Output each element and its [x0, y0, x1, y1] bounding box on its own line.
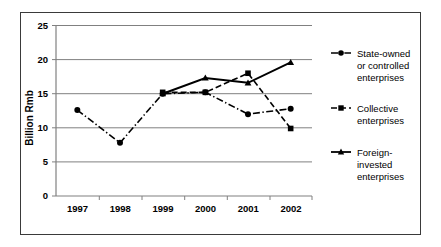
legend-entry-foreign-invested[interactable]: Foreign- invested enterprises — [331, 147, 404, 182]
data-point-circle-icon — [245, 111, 251, 117]
y-axis-title-text: Billion Rmb — [24, 90, 35, 146]
x-tick-label: 1999 — [152, 203, 173, 214]
chart-figure: Billion Rmb 25 20 15 10 5 0 — [0, 0, 441, 247]
legend-label-foreign-line1: Foreign- — [357, 147, 392, 158]
legend-label-collective-line1: Collective — [357, 103, 398, 114]
legend-label-collective-line2: enterprises — [357, 115, 404, 126]
legend-entry-state-owned[interactable]: State-owned or controlled enterprises — [331, 48, 410, 83]
chart-legend: State-owned or controlled enterprises Co… — [331, 48, 410, 182]
legend-entry-collective[interactable]: Collective enterprises — [331, 103, 404, 126]
x-tick-label: 2001 — [238, 203, 260, 214]
series-path — [77, 92, 290, 142]
x-tick-label: 1997 — [67, 203, 88, 214]
x-tick-marks — [99, 196, 312, 200]
y-tick-label: 5 — [43, 156, 49, 167]
x-tick-label: 2000 — [195, 203, 216, 214]
legend-label-state-owned-line2: or controlled — [357, 60, 409, 71]
axes — [56, 26, 312, 197]
y-tick-label: 20 — [37, 54, 48, 65]
data-point-square-icon — [288, 126, 294, 132]
y-tick-label: 0 — [43, 190, 48, 201]
series-state-owned-or-controlled-enterprises — [74, 89, 293, 145]
y-tick-label: 10 — [37, 122, 48, 133]
data-point-square-icon — [245, 70, 251, 76]
y-tick-labels: 25 20 15 10 5 0 — [37, 20, 48, 201]
y-axis-title: Billion Rmb — [24, 90, 35, 146]
data-point-circle-icon — [117, 140, 123, 146]
series-layer — [74, 59, 294, 146]
x-tick-labels: 1997 1998 1999 2000 2001 2002 — [67, 203, 302, 214]
legend-label-state-owned-line1: State-owned — [357, 48, 410, 59]
legend-marker-circle-icon — [338, 50, 344, 56]
x-tick-label: 1998 — [110, 203, 131, 214]
x-tick-label: 2002 — [280, 203, 301, 214]
legend-marker-square-icon — [338, 105, 343, 110]
y-tick-label: 25 — [37, 20, 48, 31]
legend-label-state-owned-line3: enterprises — [357, 72, 404, 83]
data-point-circle-icon — [74, 107, 80, 113]
data-point-square-icon — [203, 90, 209, 96]
y-tick-label: 15 — [37, 88, 48, 99]
series-path — [163, 73, 291, 128]
series-foreign-invested-enterprises — [159, 59, 294, 96]
data-point-circle-icon — [288, 106, 294, 112]
line-chart: Billion Rmb 25 20 15 10 5 0 — [0, 0, 441, 247]
legend-label-foreign-line2: invested — [357, 159, 392, 170]
series-path — [163, 62, 291, 93]
legend-label-foreign-line3: enterprises — [357, 171, 404, 182]
